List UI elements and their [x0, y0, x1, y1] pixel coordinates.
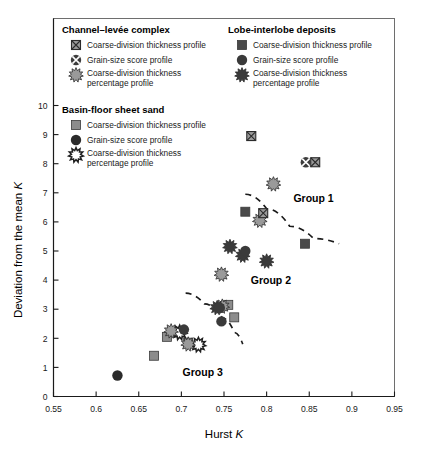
group-annotation: Group 2: [251, 274, 291, 286]
legend-item-label: Coarse-division thickness: [87, 68, 181, 78]
y-tick-label: 10: [38, 101, 48, 111]
x-tick-label: 0.7: [175, 404, 187, 414]
legend-marker: [238, 41, 247, 50]
series-group: [112, 370, 122, 380]
y-tick-label: 6: [43, 217, 48, 227]
legend-marker: [72, 41, 81, 50]
marker-circle: [179, 324, 189, 334]
data-point: [301, 157, 311, 167]
legend-marker: [237, 55, 247, 65]
data-point: [112, 370, 122, 380]
legend-item-label: Coarse-division thickness: [253, 68, 347, 78]
legend-item-label-cont: percentage profile: [87, 78, 154, 88]
y-tick-label: 2: [43, 334, 48, 344]
y-tick-label: 3: [43, 304, 48, 314]
x-tick-label: 0.85: [301, 404, 318, 414]
legend-marker: [71, 135, 81, 145]
legend-item-label: Coarse-division thickness: [87, 148, 181, 158]
marker-square: [150, 351, 159, 360]
legend-marker: [72, 121, 81, 130]
x-tick-label: 0.95: [386, 404, 403, 414]
legend-item-label-cont: percentage profile: [87, 158, 154, 168]
x-axis-title: Hurst K: [205, 428, 245, 440]
legend-item-label: Grain-size score profile: [87, 55, 173, 65]
data-point: [247, 132, 256, 141]
data-point: [241, 207, 250, 216]
legend-block-title: Lobe-interlobe deposits: [228, 24, 336, 35]
legend-marker: [71, 55, 81, 65]
data-point: [311, 158, 320, 167]
y-tick-label: 7: [43, 188, 48, 198]
data-point: [215, 303, 225, 313]
data-point: [216, 316, 226, 326]
data-point: [150, 351, 159, 360]
group-annotation: Group 1: [293, 192, 333, 204]
y-tick-label: 4: [43, 275, 48, 285]
figure-container: 0.550.60.650.70.750.80.850.90.9501234567…: [0, 0, 422, 458]
x-tick-label: 0.75: [216, 404, 233, 414]
data-point: [300, 239, 309, 248]
series-group: [301, 157, 311, 167]
plot-background: [0, 0, 422, 458]
legend-block-title: Basin-floor sheet sand: [62, 104, 165, 115]
legend-item-label: Grain-size score profile: [253, 55, 339, 65]
data-point: [259, 209, 268, 218]
x-tick-label: 0.6: [90, 404, 102, 414]
marker-circle: [215, 303, 225, 313]
marker-square: [238, 41, 247, 50]
data-point: [230, 313, 239, 322]
legend-block-title: Channel–levée complex: [62, 24, 170, 35]
marker-circle: [216, 316, 226, 326]
legend-item-label: Coarse-division thickness profile: [87, 120, 206, 130]
y-tick-label: 5: [43, 246, 48, 256]
y-axis-title: Deviation from the mean K: [12, 181, 24, 318]
x-tick-label: 0.65: [130, 404, 147, 414]
legend-item-label-cont: percentage profile: [253, 78, 320, 88]
data-point: [179, 324, 189, 334]
legend-item-label: Coarse-division thickness profile: [87, 40, 206, 50]
marker-circle: [71, 135, 81, 145]
scatter-plot: 0.550.60.650.70.750.80.850.90.9501234567…: [0, 0, 422, 458]
x-tick-label: 0.8: [261, 404, 273, 414]
x-tick-label: 0.55: [45, 404, 62, 414]
x-tick-label: 0.9: [346, 404, 358, 414]
y-tick-label: 1: [43, 363, 48, 373]
group-annotation: Group 3: [183, 366, 223, 378]
y-tick-label: 8: [43, 159, 48, 169]
legend-item-label: Grain-size score profile: [87, 135, 173, 145]
marker-circle: [237, 55, 247, 65]
marker-circle: [240, 246, 250, 256]
y-tick-label: 9: [43, 130, 48, 140]
data-point: [240, 246, 250, 256]
y-tick-label: 0: [43, 392, 48, 402]
marker-circle: [112, 370, 122, 380]
marker-square: [241, 207, 250, 216]
legend-item-label: Coarse-division thickness profile: [253, 40, 372, 50]
marker-square: [300, 239, 309, 248]
marker-square: [72, 121, 81, 130]
marker-square: [230, 313, 239, 322]
